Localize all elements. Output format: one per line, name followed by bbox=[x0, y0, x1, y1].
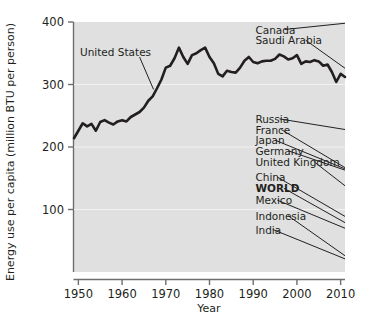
x-tick-label: 2000 bbox=[282, 287, 311, 301]
energy-use-per-capita-line-chart: 100200300400 195019601970198019902000201… bbox=[0, 0, 365, 322]
series-label-germany: Germany bbox=[255, 145, 303, 157]
x-axis-ticks: 1950196019701980199020002010 bbox=[64, 280, 356, 302]
x-tick-label: 1950 bbox=[64, 287, 93, 301]
x-tick-label: 1960 bbox=[107, 287, 136, 301]
chart-page: 100200300400 195019601970198019902000201… bbox=[0, 0, 365, 322]
series-label-indonesia: Indonesia bbox=[255, 210, 306, 222]
series-label-united-kingdom: United Kingdom bbox=[255, 156, 339, 168]
series-label-china: China bbox=[255, 171, 285, 183]
series-label-mexico: Mexico bbox=[255, 194, 292, 206]
y-tick-label: 100 bbox=[42, 203, 64, 217]
annotation-label-united-states: United States bbox=[80, 46, 151, 58]
x-tick-label: 2010 bbox=[326, 287, 355, 301]
y-axis-title: Energy use per capita (million BTU per p… bbox=[4, 23, 17, 281]
series-label-india: India bbox=[255, 224, 281, 236]
y-tick-label: 300 bbox=[42, 78, 64, 92]
series-label-saudi-arabia: Saudi Arabia bbox=[255, 34, 322, 46]
y-tick-label: 200 bbox=[42, 140, 64, 154]
y-tick-label: 400 bbox=[42, 15, 64, 29]
x-tick-label: 1980 bbox=[195, 287, 224, 301]
series-label-world: WORLD bbox=[255, 182, 299, 194]
x-tick-label: 1970 bbox=[151, 287, 180, 301]
x-axis-title: Year bbox=[196, 302, 221, 315]
x-tick-label: 1990 bbox=[239, 287, 268, 301]
